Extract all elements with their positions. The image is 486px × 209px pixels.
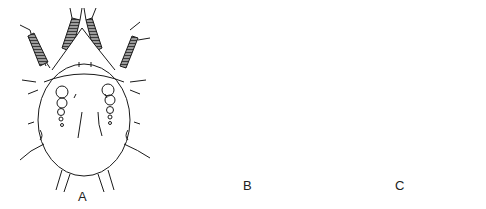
panel-label-b: B — [243, 179, 252, 192]
panel-label-c: C — [395, 179, 404, 192]
mite-figure: A B C — [0, 0, 486, 209]
panel-label-a: A — [78, 190, 87, 203]
mite-a — [20, 8, 150, 192]
